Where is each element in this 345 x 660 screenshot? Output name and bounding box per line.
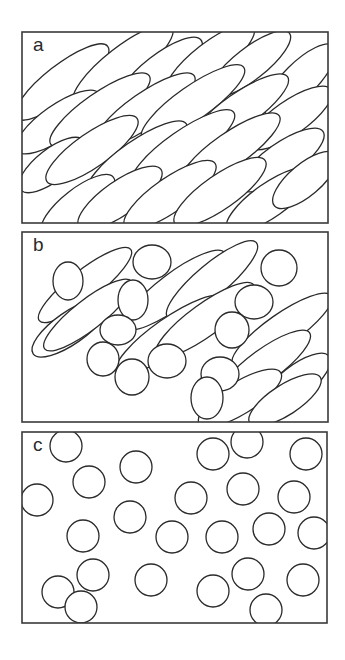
- round-grain: [65, 591, 97, 623]
- round-grain: [77, 559, 109, 591]
- round-grain: [148, 344, 186, 378]
- round-grain: [115, 359, 149, 395]
- round-grain: [298, 517, 330, 549]
- round-grain: [227, 473, 259, 505]
- round-grain: [191, 377, 223, 419]
- round-grain: [197, 575, 229, 607]
- panel-b-label: b: [33, 234, 44, 255]
- round-grain: [114, 501, 146, 533]
- panel-a-label: a: [33, 34, 44, 55]
- round-grain: [290, 438, 322, 470]
- round-grain: [278, 481, 310, 513]
- round-grain: [250, 594, 282, 626]
- round-grain: [50, 430, 82, 462]
- round-grain: [253, 513, 285, 545]
- round-grain: [175, 482, 207, 514]
- round-grain: [261, 250, 297, 286]
- round-grain: [287, 564, 319, 596]
- round-grains-c: [21, 426, 330, 626]
- round-grain: [197, 438, 229, 470]
- round-grain: [232, 558, 264, 590]
- panel-a: a: [6, 13, 345, 246]
- panel-b: b: [22, 230, 340, 437]
- round-grain: [133, 245, 171, 279]
- round-grain: [135, 564, 167, 596]
- panel-c-label: c: [33, 434, 43, 455]
- round-grain: [118, 280, 148, 320]
- round-grain: [215, 312, 249, 348]
- round-grain: [21, 484, 53, 516]
- elongated-grains-a: [6, 13, 345, 246]
- grain-packing-figure: a b c: [0, 0, 345, 660]
- round-grain: [231, 426, 263, 458]
- round-grain: [73, 466, 105, 498]
- round-grain: [53, 262, 83, 300]
- panel-c: c: [21, 426, 330, 626]
- round-grain: [206, 521, 238, 553]
- round-grain: [67, 520, 99, 552]
- round-grain: [100, 315, 136, 345]
- round-grain: [120, 451, 152, 483]
- round-grain: [156, 521, 188, 553]
- round-grain: [87, 342, 119, 376]
